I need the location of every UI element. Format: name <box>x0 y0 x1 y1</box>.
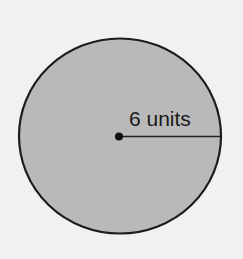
center-point <box>115 133 123 141</box>
radius-label: 6 units <box>129 107 191 130</box>
circle-diagram: 6 units <box>0 0 243 259</box>
